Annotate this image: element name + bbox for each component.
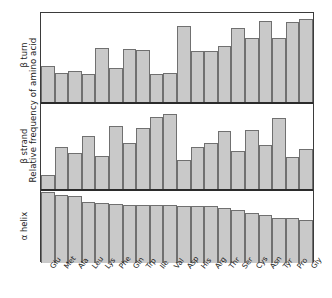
- bar-alpha-helix-Glu: [41, 192, 55, 263]
- bar-beta-turn-Asn: [259, 21, 273, 102]
- bar-alpha-helix-Phe: [109, 204, 123, 263]
- bar-beta-turn-Thr: [218, 46, 232, 102]
- bar-beta-turn-Gly: [299, 19, 313, 102]
- bar-beta-strand-Lys: [95, 156, 109, 189]
- bar-beta-turn-His: [191, 51, 205, 102]
- bar-beta-turn-Met: [55, 73, 69, 102]
- bar-beta-turn-Gln: [123, 49, 137, 102]
- bar-beta-turn-Cys: [245, 38, 259, 102]
- bar-beta-strand-His: [191, 147, 205, 190]
- bar-beta-turn-Trp: [136, 50, 150, 103]
- bar-beta-turn-Tyr: [272, 38, 286, 102]
- bar-beta-turn-Ser: [231, 28, 245, 102]
- bar-beta-turn-Arg: [204, 51, 218, 102]
- bar-alpha-helix-Val: [163, 205, 177, 263]
- bar-beta-strand-Asp: [177, 160, 191, 189]
- bar-beta-turn-Val: [163, 73, 177, 102]
- panel-label-beta-strand: β strand: [19, 117, 29, 175]
- bar-beta-strand-Gln: [123, 143, 137, 189]
- bar-group-beta-strand: [41, 104, 313, 189]
- bar-beta-strand-Arg: [204, 143, 218, 189]
- bar-beta-strand-Ala: [68, 153, 82, 189]
- bar-beta-strand-Trp: [136, 128, 150, 189]
- bar-beta-turn-Glu: [41, 66, 55, 102]
- panel-beta-turn: [41, 13, 313, 102]
- bar-beta-turn-Ile: [150, 74, 164, 102]
- bar-group-alpha-helix: [41, 191, 313, 263]
- bar-beta-strand-Ser: [231, 151, 245, 189]
- bar-beta-turn-Leu: [82, 74, 96, 102]
- bar-beta-strand-Glu: [41, 175, 55, 189]
- bar-alpha-helix-Asp: [177, 206, 191, 263]
- bar-alpha-helix-Leu: [82, 202, 96, 263]
- bar-beta-strand-Pro: [286, 157, 300, 189]
- bar-beta-turn-Asp: [177, 26, 191, 102]
- bar-beta-turn-Ala: [68, 71, 82, 102]
- x-axis-tick-labels: GluMetAlaLeuLysPheGlnTrpIleValAspHisArgT…: [40, 262, 314, 298]
- panel-label-alpha-helix: α helix: [19, 199, 29, 253]
- bar-beta-turn-Phe: [109, 68, 123, 102]
- bar-alpha-helix-Arg: [204, 206, 218, 263]
- plot-frame: [40, 12, 314, 262]
- bar-beta-strand-Met: [55, 147, 69, 190]
- bar-alpha-helix-Ile: [150, 205, 164, 263]
- panel-alpha-helix: [41, 189, 313, 263]
- bar-beta-strand-Cys: [245, 130, 259, 189]
- panel-label-beta-turn: β turn: [19, 29, 29, 81]
- bar-beta-turn-Pro: [286, 22, 300, 102]
- y-axis-title: Relative frequency of amino acid: [28, 15, 38, 205]
- bar-alpha-helix-Met: [55, 195, 69, 263]
- bar-group-beta-turn: [41, 13, 313, 102]
- bar-beta-turn-Lys: [95, 48, 109, 102]
- bar-beta-strand-Phe: [109, 126, 123, 189]
- bar-beta-strand-Gly: [299, 149, 313, 189]
- bar-beta-strand-Val: [163, 114, 177, 189]
- bar-beta-strand-Asn: [259, 145, 273, 189]
- bar-beta-strand-Leu: [82, 136, 96, 189]
- bar-beta-strand-Tyr: [272, 118, 286, 189]
- figure-container: Relative frequency of amino acid β turn …: [0, 0, 332, 298]
- bar-beta-strand-Thr: [218, 131, 232, 189]
- panel-beta-strand: [41, 102, 313, 189]
- bar-beta-strand-Ile: [150, 117, 164, 189]
